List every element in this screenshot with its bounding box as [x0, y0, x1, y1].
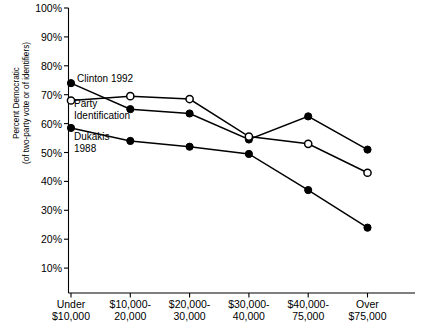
data-point-1-4: [305, 140, 312, 147]
series-line-0: [71, 83, 368, 149]
data-point-0-1: [127, 106, 134, 113]
data-point-2-1: [127, 137, 134, 144]
data-point-2-5: [364, 224, 371, 231]
data-point-0-4: [305, 113, 312, 120]
data-point-1-1: [127, 93, 134, 100]
data-point-0-5: [364, 146, 371, 153]
data-point-2-2: [186, 143, 193, 150]
series-line-1: [71, 96, 368, 173]
data-point-1-0: [67, 97, 74, 104]
data-point-0-0: [67, 80, 74, 87]
data-point-1-5: [364, 169, 371, 176]
data-point-2-4: [305, 186, 312, 193]
data-point-1-2: [186, 95, 193, 102]
data-point-1-3: [245, 133, 252, 140]
data-point-0-2: [186, 110, 193, 117]
plot-area: [0, 0, 421, 335]
data-point-2-3: [245, 150, 252, 157]
data-point-2-0: [67, 124, 74, 131]
series-line-2: [71, 128, 368, 228]
chart-figure: Percent Democratic (of two-party vote or…: [0, 0, 421, 335]
